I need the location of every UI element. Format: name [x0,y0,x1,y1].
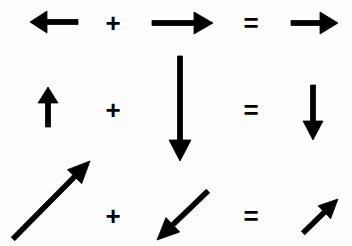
equals-operator: = [243,95,258,125]
arrow-left-short-icon [30,11,78,33]
arrow-down-medium-icon [303,85,323,140]
arrow-right-long-icon [152,12,213,34]
arrow-right-short-icon [291,12,338,34]
diagram-canvas: +=+=+= [0,0,352,246]
equals-operator: = [243,201,258,231]
plus-operator: + [105,8,120,38]
vector-addition-diagram: +=+=+= [0,0,352,246]
equals-operator: = [243,8,258,38]
plus-operator: + [105,201,120,231]
arrow-down-long-icon [169,56,191,161]
arrow-diagonal-down-left-icon [157,189,210,240]
arrow-diagonal-up-right-long-icon [11,161,90,241]
arrow-diagonal-up-right-short-icon [301,199,338,235]
plus-operator: + [105,95,120,125]
arrow-up-short-icon [38,87,58,127]
